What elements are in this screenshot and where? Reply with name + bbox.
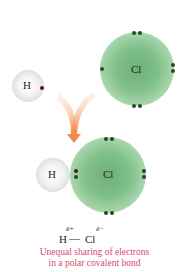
caption-line-2: in a polar covalent bond [0, 258, 189, 269]
cl-electron [100, 67, 104, 71]
formula-h: H [59, 233, 67, 245]
cl-electron [104, 137, 108, 141]
shared-electron-cl [74, 175, 78, 179]
hydrogen-electron-top [40, 86, 44, 90]
cl-electron [138, 31, 142, 35]
cl-electron [104, 211, 108, 215]
cl-electron [132, 104, 136, 108]
chlorine-label-top: Cl [131, 63, 141, 75]
shared-electron-h [74, 169, 78, 173]
cl-electron [110, 137, 114, 141]
formula-cl: Cl [85, 233, 95, 245]
chlorine-label-bottom: Cl [103, 168, 113, 180]
cl-electron [138, 104, 142, 108]
cl-electron [171, 69, 175, 73]
cl-electron [110, 211, 114, 215]
cl-electron [142, 175, 146, 179]
delta-minus: δ− [96, 225, 104, 233]
cl-electron [171, 63, 175, 67]
formula-bond: — [69, 232, 80, 244]
cl-electron [142, 169, 146, 173]
caption: Unequal sharing of electrons in a polar … [0, 247, 189, 269]
cl-electron [132, 31, 136, 35]
hydrogen-label-bottom: H [48, 168, 56, 180]
hydrogen-label-top: H [23, 79, 31, 91]
caption-line-1: Unequal sharing of electrons [0, 247, 189, 258]
